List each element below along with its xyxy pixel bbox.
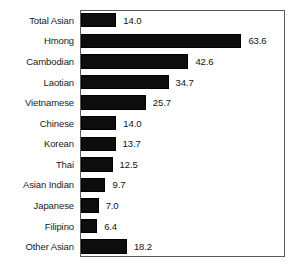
bar — [81, 116, 116, 130]
bar-value-label: 63.6 — [248, 35, 266, 46]
bar-group: 14.0 — [81, 116, 141, 130]
category-label: Vietnamese — [0, 97, 74, 108]
bar — [81, 239, 127, 253]
bar-group: 14.0 — [81, 13, 141, 27]
bar-group: 34.7 — [81, 75, 194, 89]
bar-row: Filipino6.4 — [0, 216, 298, 237]
bar-row: Asian Indian9.7 — [0, 175, 298, 196]
bar — [81, 13, 116, 27]
bar-group: 6.4 — [81, 219, 117, 233]
category-label: Other Asian — [0, 241, 74, 252]
bar-group: 42.6 — [81, 54, 214, 68]
category-label: Thai — [0, 159, 74, 170]
bar-value-label: 12.5 — [120, 159, 138, 170]
bar-row: Chinese14.0 — [0, 113, 298, 134]
category-label: Asian Indian — [0, 179, 74, 190]
bar-value-label: 14.0 — [123, 118, 141, 129]
category-label: Japanese — [0, 200, 74, 211]
bar — [81, 95, 146, 109]
bar-group: 7.0 — [81, 198, 119, 212]
bar-row: Other Asian18.2 — [0, 236, 298, 257]
bar — [81, 219, 97, 233]
bar-value-label: 34.7 — [176, 77, 194, 88]
category-label: Total Asian — [0, 15, 74, 26]
bar-value-label: 18.2 — [134, 241, 152, 252]
bar — [81, 178, 105, 192]
bar — [81, 75, 169, 89]
bar-row: Thai12.5 — [0, 154, 298, 175]
bar — [81, 157, 113, 171]
bar-value-label: 13.7 — [123, 138, 141, 149]
bar-row: Laotian34.7 — [0, 72, 298, 93]
bar-row: Cambodian42.6 — [0, 51, 298, 72]
bar-value-label: 9.7 — [112, 179, 125, 190]
bar-group: 63.6 — [81, 34, 266, 48]
bar — [81, 137, 116, 151]
bar — [81, 54, 188, 68]
category-label: Filipino — [0, 221, 74, 232]
bar-group: 12.5 — [81, 157, 138, 171]
bar-row: Japanese7.0 — [0, 195, 298, 216]
bar — [81, 198, 99, 212]
bar-group: 18.2 — [81, 239, 152, 253]
bar-value-label: 6.4 — [104, 221, 117, 232]
bar-row: Vietnamese25.7 — [0, 92, 298, 113]
bar-rows: Total Asian14.0Hmong63.6Cambodian42.6Lao… — [0, 10, 298, 257]
bar-group: 9.7 — [81, 178, 125, 192]
bar-group: 13.7 — [81, 137, 141, 151]
bar-value-label: 7.0 — [106, 200, 119, 211]
bar-row: Total Asian14.0 — [0, 10, 298, 31]
category-label: Laotian — [0, 77, 74, 88]
bar-row: Korean13.7 — [0, 134, 298, 155]
category-label: Cambodian — [0, 56, 74, 67]
bar — [81, 34, 241, 48]
category-label: Hmong — [0, 35, 74, 46]
bar-value-label: 14.0 — [123, 15, 141, 26]
bar-group: 25.7 — [81, 95, 171, 109]
bar-row: Hmong63.6 — [0, 31, 298, 52]
bar-value-label: 25.7 — [153, 97, 171, 108]
bar-chart: Total Asian14.0Hmong63.6Cambodian42.6Lao… — [0, 0, 298, 271]
category-label: Chinese — [0, 118, 74, 129]
category-label: Korean — [0, 138, 74, 149]
bar-value-label: 42.6 — [195, 56, 213, 67]
